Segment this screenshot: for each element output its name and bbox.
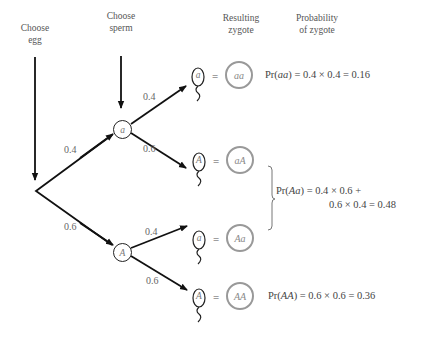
prob-aa: Pr(aa) = 0.4 × 0.4 = 0.16: [265, 69, 370, 80]
egg-node-A-label: A: [120, 248, 126, 258]
zygote-aa: aa: [225, 61, 253, 89]
egg-prob-A: 0.6: [64, 221, 77, 232]
prob-AA-expr: ) = 0.6 × 0.6 = 0.36: [294, 290, 376, 301]
zygote-Aa: Aa: [226, 224, 254, 252]
sperm-letter-1: a: [192, 70, 204, 80]
equals-4: =: [213, 291, 219, 303]
prob-aa-genotype: aa: [278, 69, 289, 80]
egg-node-a: a: [113, 120, 132, 139]
equals-3: =: [213, 233, 219, 245]
equals-2: =: [213, 155, 219, 167]
zygote-AA: AA: [226, 282, 254, 310]
sperm-prob-Aa: 0.4: [145, 226, 158, 237]
sperm-letter-3: a: [193, 233, 205, 243]
egg-prob-a: 0.4: [64, 144, 77, 155]
egg-node-a-label: a: [120, 125, 125, 135]
prob-Aa-prefix: Pr(: [276, 185, 289, 196]
equals-1: =: [212, 70, 218, 82]
zygote-Aa-label: Aa: [234, 233, 245, 244]
prob-aa-prefix: Pr(: [265, 69, 278, 80]
zygote-aa-label: aa: [234, 70, 244, 81]
sperm-letter-4: A: [193, 291, 205, 301]
prob-AA: Pr(AA) = 0.6 × 0.6 = 0.36: [268, 290, 375, 301]
sperm-prob-aa: 0.4: [143, 91, 156, 102]
prob-Aa-line2: 0.6 × 0.4 = 0.48: [329, 199, 396, 210]
zygote-aA-label: aA: [234, 155, 245, 166]
prob-aa-expr: ) = 0.4 × 0.4 = 0.16: [288, 69, 370, 80]
sperm-prob-AA: 0.6: [146, 275, 159, 286]
zygote-aA: aA: [226, 146, 254, 174]
prob-AA-genotype: AA: [281, 290, 294, 301]
prob-Aa-expr2: 0.6 × 0.4 = 0.48: [329, 199, 396, 210]
prob-AA-prefix: Pr(: [268, 290, 281, 301]
prob-Aa-expr1: ) = 0.4 × 0.6 +: [301, 185, 362, 196]
prob-Aa: Pr(Aa) = 0.4 × 0.6 +: [276, 185, 361, 196]
prob-Aa-genotype: Aa: [289, 185, 301, 196]
zygote-AA-label: AA: [234, 291, 246, 302]
bracket: [268, 166, 275, 230]
sperm-prob-aA: 0.6: [143, 143, 156, 154]
sperm-letter-2: A: [193, 155, 205, 165]
egg-node-A: A: [113, 243, 132, 262]
